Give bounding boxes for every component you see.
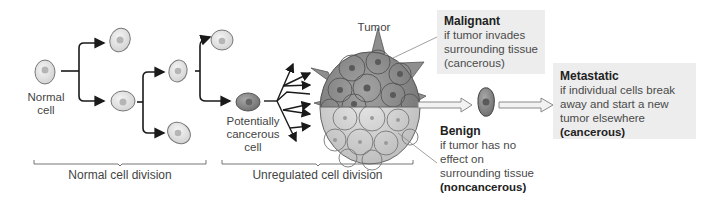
- normal-cell-label: Normal cell: [22, 91, 70, 117]
- metastatic-line: away and start a new: [560, 97, 690, 111]
- daughter-cell-icon: [111, 91, 135, 111]
- malignant-line: (cancerous): [444, 56, 539, 70]
- malignant-leader-line: [393, 37, 437, 58]
- benign-line: surrounding tissue: [440, 166, 560, 180]
- label-line: Normal: [22, 91, 70, 104]
- tumor-label: Tumor: [344, 21, 404, 34]
- tumor-icon: [311, 28, 426, 170]
- division-arrows: [61, 37, 230, 133]
- potentially-cancerous-cell-label: Potentially cancerous cell: [222, 115, 284, 154]
- hollow-arrow-to-metastatic-cell: [418, 98, 472, 112]
- label-line: cell: [222, 141, 284, 154]
- benign-emphasis: (noncancerous): [440, 180, 560, 194]
- label-line: cancerous: [222, 128, 284, 141]
- daughter-cell-icon: [211, 30, 233, 50]
- normal-cell-icon: [35, 60, 55, 84]
- malignant-title: Malignant: [444, 14, 539, 28]
- label-line: cell: [22, 104, 70, 117]
- benign-line: effect on: [440, 152, 560, 166]
- unregulated-cell-division-label: Unregulated cell division: [222, 168, 413, 182]
- metastatic-line: if individual cells break: [560, 83, 690, 97]
- metastatic-cell-icon: [478, 88, 495, 117]
- metastatic-line: tumor elsewhere: [560, 111, 690, 125]
- malignant-box: Malignant if tumor invades surrounding t…: [437, 10, 545, 74]
- benign-text: Benign if tumor has no effect on surroun…: [440, 124, 560, 194]
- benign-title: Benign: [440, 124, 560, 138]
- hollow-arrow-to-metastatic-box: [499, 98, 553, 112]
- metastatic-emphasis: (cancerous): [560, 125, 690, 139]
- normal-division-bracket: [34, 160, 206, 166]
- metastatic-box: Metastatic if individual cells break awa…: [553, 63, 696, 139]
- daughter-cell-icon: [166, 58, 189, 84]
- malignant-line: if tumor invades: [444, 28, 539, 42]
- daughter-cell-icon: [106, 25, 133, 54]
- metastatic-title: Metastatic: [560, 69, 690, 83]
- potentially-cancerous-cell-icon: [236, 93, 260, 111]
- daughter-cell-icon: [163, 118, 194, 148]
- benign-line: if tumor has no: [440, 138, 560, 152]
- normal-cell-division-label: Normal cell division: [34, 168, 206, 182]
- label-line: Potentially: [222, 115, 284, 128]
- malignant-line: surrounding tissue: [444, 42, 539, 56]
